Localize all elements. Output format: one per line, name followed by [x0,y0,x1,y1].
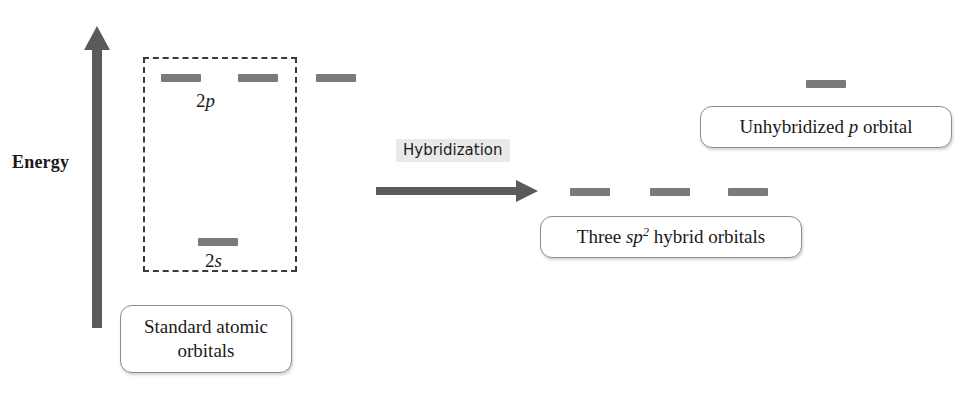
energy-axis-arrow [84,26,110,328]
orbital-label-2s-letter: s [215,250,222,271]
up-arrow-icon [84,26,110,328]
callout-unhybridized-p-orbital-text: Unhybridized p orbital [739,115,912,139]
level-bar-sp2-a [570,188,610,196]
callout-unhybridized-p-orbital: Unhybridized p orbital [700,106,952,148]
callout-hybrid-orbitals-text: Three sp2 hybrid orbitals [577,225,765,249]
orbital-label-2s: 2s [205,250,222,272]
orbital-label-2p-n: 2 [196,90,206,111]
level-bar-p-unhybridized [806,80,846,88]
hybridization-arrow [376,180,538,202]
callout-standard-atomic-orbitals-text: Standard atomicorbitals [144,315,268,362]
orbital-label-2s-n: 2 [205,250,215,271]
right-arrow-icon [376,180,538,202]
energy-axis-label: Energy [12,152,69,173]
level-bar-2s [198,238,238,246]
level-bar-2p-b [238,74,278,82]
level-bar-2p-a [161,74,201,82]
callout-standard-atomic-orbitals: Standard atomicorbitals [120,305,292,373]
orbital-label-2p: 2p [196,90,215,112]
callout-hybrid-orbitals: Three sp2 hybrid orbitals [540,216,802,258]
level-bar-sp2-b [650,188,690,196]
orbital-label-2p-letter: p [206,90,216,111]
level-bar-sp2-c [728,188,768,196]
orbital-hybridization-diagram: Energy 2p 2s Standard atomicorbitals Hyb… [0,0,964,405]
hybridization-caption: Hybridization [396,139,510,162]
level-bar-2p-c [316,74,356,82]
